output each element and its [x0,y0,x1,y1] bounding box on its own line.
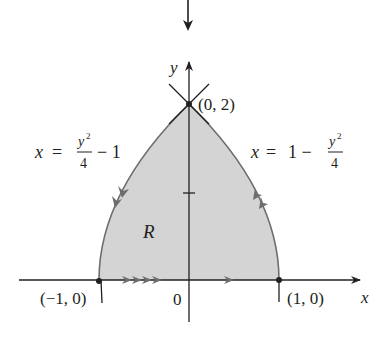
svg-text:4: 4 [331,156,338,171]
y-axis-label: y [168,58,178,77]
tick-neg1 [101,280,102,303]
svg-text:2: 2 [86,131,91,141]
point-label-1-0: (1, 0) [287,289,324,308]
svg-text:x: x [34,142,43,162]
point-label-neg1-0: (−1, 0) [40,289,86,308]
down-arrow-icon [183,0,193,31]
svg-text:− 1: − 1 [97,142,121,162]
svg-text:y: y [76,134,85,149]
region-label: R [142,221,155,242]
right-curve-equation: x = 1 − y 2 4 [250,131,343,171]
left-curve-equation: x = y 2 4 − 1 [34,131,121,171]
x-axis-label: x [360,288,369,307]
svg-text:x: x [250,142,259,162]
svg-text:4: 4 [80,156,87,171]
svg-text:=: = [266,142,276,162]
svg-text:1 −: 1 − [288,142,312,162]
svg-text:=: = [52,142,62,162]
point-neg1-0 [96,278,102,284]
svg-text:2: 2 [337,131,342,141]
point-0-2 [186,101,192,107]
point-1-0 [276,277,282,283]
origin-label: 0 [173,290,182,309]
svg-text:y: y [327,134,336,149]
region-diagram: y x 0 (0, 2) (−1, 0) (1, 0) R x = y 2 4 … [0,0,381,340]
point-label-0-2: (0, 2) [198,95,235,114]
